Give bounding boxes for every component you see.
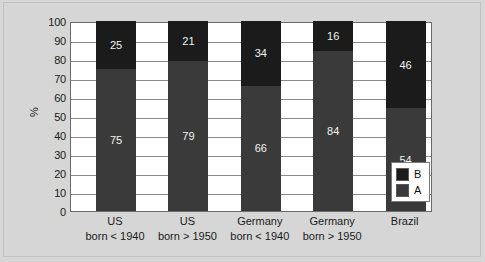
x-label-line1: Germany [237,215,282,227]
bar-segment-a[interactable] [241,86,281,211]
bar-segment-b[interactable] [96,21,136,69]
bar-segment-a[interactable] [96,69,136,212]
y-tick-label: 70 [54,73,66,85]
x-axis-category-labels: USborn < 1940USborn > 1950Germanyborn < … [70,214,432,258]
x-axis-category-label: Brazil [350,214,460,229]
bar-segment-a[interactable] [168,61,208,211]
bar-segment-b[interactable] [386,21,426,108]
stacked-bar-chart: 1009080706050403020100 % 257521793466168… [0,0,485,262]
y-tick-label: 40 [54,130,66,142]
bar-segment-b[interactable] [241,21,281,86]
plot-area: 25752179346616844654 [70,22,432,212]
bar-segment-b[interactable] [168,21,208,61]
y-tick-label: 100 [48,16,66,28]
x-label-line1: US [180,215,195,227]
y-tick-label: 10 [54,187,66,199]
x-label-line1: Brazil [391,215,419,227]
legend-label: B [414,168,421,180]
y-tick-label: 50 [54,111,66,123]
bar-group[interactable]: 2179 [168,21,208,211]
y-tick-label: 30 [54,149,66,161]
bar-group[interactable]: 3466 [241,21,281,211]
y-tick-label: 60 [54,92,66,104]
x-label-line1: US [107,215,122,227]
legend-item[interactable]: B [396,167,426,181]
legend-swatch-icon [396,184,409,197]
legend-label: A [414,184,421,196]
y-axis-title: % [28,107,40,117]
legend-swatch-icon [396,168,409,181]
y-tick-label: 80 [54,54,66,66]
y-tick-label: 20 [54,168,66,180]
x-label-line2: born > 1950 [277,229,387,244]
x-label-line1: Germany [310,215,355,227]
legend-item[interactable]: A [396,183,426,197]
bar-segment-a[interactable] [313,51,353,211]
bar-group[interactable]: 2575 [96,21,136,211]
y-axis-tick-labels: 1009080706050403020100 [30,22,66,212]
bar-segment-b[interactable] [313,21,353,51]
bar-group[interactable]: 1684 [313,21,353,211]
chart-legend[interactable]: BA [391,162,430,202]
y-tick-label: 90 [54,35,66,47]
